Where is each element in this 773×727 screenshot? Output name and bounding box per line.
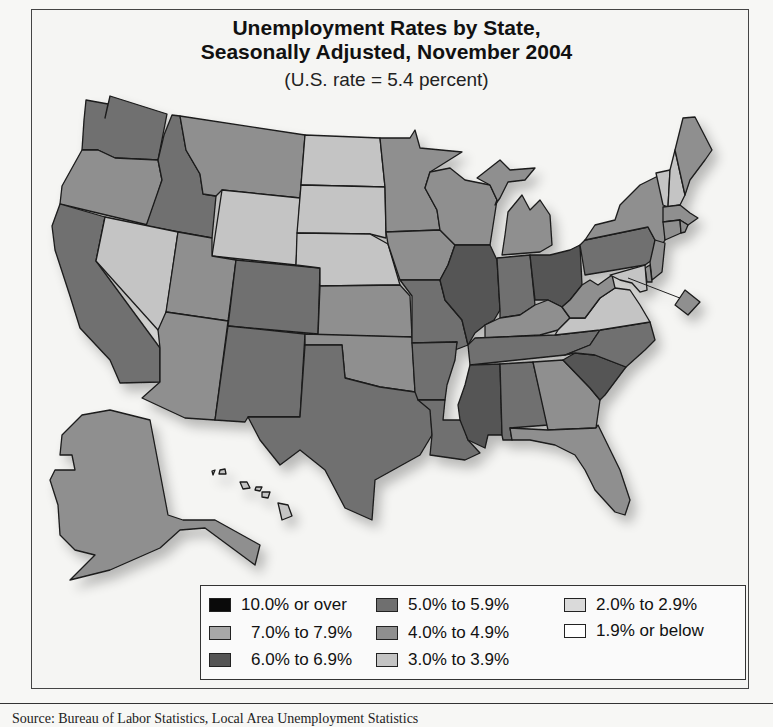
legend-label: 6.0% to 6.9% <box>241 650 352 670</box>
state-colorado[interactable] <box>228 260 320 334</box>
state-hawaii[interactable] <box>262 492 270 498</box>
state-hawaii[interactable] <box>255 487 262 491</box>
state-florida[interactable] <box>510 425 630 515</box>
legend-swatch <box>209 598 231 612</box>
legend-item-5-to-5-9: 5.0% to 5.9% <box>376 595 509 615</box>
legend-item-10-or-over: 10.0% or over <box>209 595 347 615</box>
legend-item-2-to-2-9: 2.0% to 2.9% <box>564 595 697 615</box>
state-wyoming[interactable] <box>212 190 300 265</box>
legend-swatch <box>564 598 586 612</box>
state-north-dakota[interactable] <box>301 135 385 187</box>
legend-item-1-9-or-below: 1.9% or below <box>564 621 704 641</box>
state-hawaii-group <box>212 469 292 520</box>
state-arkansas[interactable] <box>412 342 457 400</box>
state-hawaii[interactable] <box>240 482 250 489</box>
legend-swatch <box>564 624 586 638</box>
legend-item-7-to-7-9: 7.0% to 7.9% <box>209 623 352 643</box>
source-note: Source: Bureau of Labor Statistics, Loca… <box>12 711 418 727</box>
legend-label: 2.0% to 2.9% <box>596 595 697 615</box>
legend: 10.0% or over 7.0% to 7.9% 6.0% to 6.9% … <box>200 585 746 680</box>
legend-swatch <box>376 653 398 667</box>
state-hawaii[interactable] <box>278 503 292 520</box>
legend-swatch <box>209 653 231 667</box>
state-kansas[interactable] <box>318 285 412 337</box>
divider-rule <box>0 703 773 704</box>
legend-label: 1.9% or below <box>596 621 704 641</box>
state-district-of-columbia[interactable] <box>675 290 700 315</box>
legend-label: 7.0% to 7.9% <box>241 623 352 643</box>
legend-label: 3.0% to 3.9% <box>408 650 509 670</box>
legend-swatch <box>376 598 398 612</box>
state-hawaii[interactable] <box>212 470 215 475</box>
legend-item-4-to-4-9: 4.0% to 4.9% <box>376 623 509 643</box>
legend-item-6-to-6-9: 6.0% to 6.9% <box>209 650 352 670</box>
state-connecticut[interactable] <box>663 220 681 240</box>
state-hawaii[interactable] <box>219 469 226 474</box>
legend-label: 10.0% or over <box>241 595 347 615</box>
state-alaska[interactable] <box>50 410 260 580</box>
legend-label: 4.0% to 4.9% <box>408 623 509 643</box>
state-south-dakota[interactable] <box>297 185 386 238</box>
legend-swatch <box>209 626 231 640</box>
legend-swatch <box>376 626 398 640</box>
state-new-mexico[interactable] <box>215 326 305 422</box>
legend-label: 5.0% to 5.9% <box>408 595 509 615</box>
legend-item-3-to-3-9: 3.0% to 3.9% <box>376 650 509 670</box>
